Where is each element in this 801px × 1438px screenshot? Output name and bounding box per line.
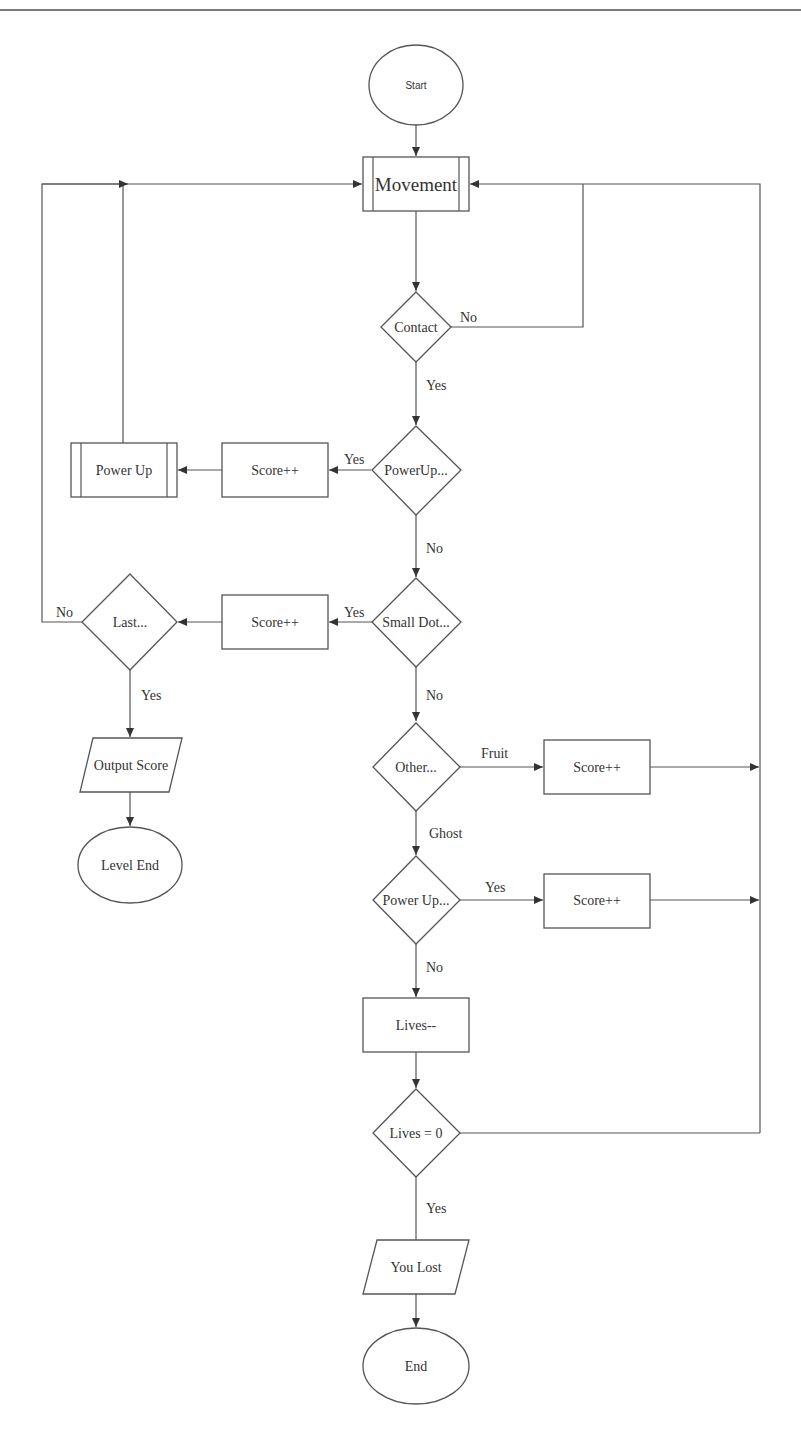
node-other[interactable]: Other...	[373, 723, 460, 811]
last-label: Last...	[113, 615, 148, 630]
last-no-label: No	[56, 605, 73, 620]
node-start[interactable]: Start	[369, 45, 463, 125]
power-up-label: Power Up	[96, 463, 152, 478]
last-yes-label: Yes	[141, 688, 161, 703]
flowchart: Start Movement Contact PowerUp... Score+…	[0, 0, 801, 1438]
node-movement[interactable]: Movement	[363, 157, 469, 211]
node-lives-zero[interactable]: Lives = 0	[373, 1089, 460, 1177]
small-dot-label: Small Dot...	[382, 615, 450, 630]
node-contact[interactable]: Contact	[381, 292, 451, 362]
you-lost-label: You Lost	[390, 1260, 441, 1275]
contact-yes-label: Yes	[426, 378, 446, 393]
score-dot-label: Score++	[251, 615, 299, 630]
powerup-yes-label: Yes	[344, 452, 364, 467]
powerup-no-label: No	[426, 541, 443, 556]
edge-contact-no	[451, 184, 583, 327]
node-level-end[interactable]: Level End	[78, 827, 182, 903]
movement-label: Movement	[375, 174, 458, 195]
edge-last-no	[42, 184, 362, 622]
lives-yes-label: Yes	[426, 1201, 446, 1216]
other-ghost-label: Ghost	[429, 826, 463, 841]
start-label: Start	[405, 80, 426, 91]
powerup2-no-label: No	[426, 960, 443, 975]
lives-dec-label: Lives--	[396, 1018, 437, 1033]
node-small-dot[interactable]: Small Dot...	[372, 578, 461, 667]
power-up-check2-label: Power Up...	[383, 893, 450, 908]
node-score-fruit[interactable]: Score++	[544, 740, 650, 794]
other-fruit-label: Fruit	[481, 746, 508, 761]
node-score-ghost[interactable]: Score++	[544, 874, 650, 928]
node-score-powerup[interactable]: Score++	[222, 443, 328, 497]
powerup-check-label: PowerUp...	[384, 463, 447, 478]
node-you-lost[interactable]: You Lost	[363, 1240, 469, 1294]
contact-no-label: No	[460, 310, 477, 325]
end-label: End	[405, 1359, 428, 1374]
edge-right-loop	[470, 184, 760, 1133]
output-score-label: Output Score	[94, 758, 168, 773]
node-end[interactable]: End	[363, 1328, 469, 1404]
node-lives-dec[interactable]: Lives--	[363, 998, 469, 1052]
powerup2-yes-label: Yes	[485, 880, 505, 895]
score-fruit-label: Score++	[573, 760, 621, 775]
node-score-dot[interactable]: Score++	[222, 595, 328, 649]
lives-zero-label: Lives = 0	[390, 1126, 443, 1141]
node-last[interactable]: Last...	[82, 574, 177, 670]
score-powerup-label: Score++	[251, 463, 299, 478]
smalldot-no-label: No	[426, 688, 443, 703]
contact-label: Contact	[394, 320, 438, 335]
smalldot-yes-label: Yes	[344, 605, 364, 620]
level-end-label: Level End	[101, 858, 159, 873]
node-power-up[interactable]: Power Up	[71, 443, 177, 497]
node-powerup-check[interactable]: PowerUp...	[372, 426, 461, 515]
score-ghost-label: Score++	[573, 893, 621, 908]
node-output-score[interactable]: Output Score	[80, 738, 182, 792]
node-power-up-check2[interactable]: Power Up...	[373, 856, 460, 944]
other-label: Other...	[395, 760, 437, 775]
